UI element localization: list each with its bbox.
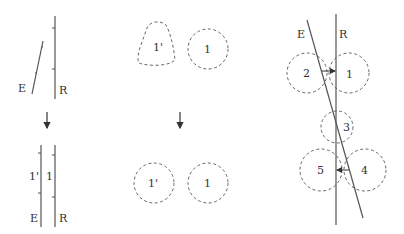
middle-top-group: 1' 1 (138, 22, 228, 69)
label-4: 4 (361, 164, 368, 177)
label-1: 1 (204, 43, 211, 56)
label-R: R (339, 28, 348, 41)
label-1prime: 1' (29, 170, 39, 183)
middle-bottom-group: 1' 1 (134, 163, 228, 203)
label-1: 1 (204, 177, 211, 190)
right-group: E R 2 1 3 4 5 (287, 14, 386, 225)
label-1prime: 1' (148, 177, 158, 190)
label-5: 5 (317, 164, 324, 177)
label-R: R (59, 84, 68, 97)
line-E-top (32, 41, 43, 94)
label-E: E (297, 28, 305, 41)
label-2: 2 (303, 67, 310, 80)
label-1: 1 (346, 68, 353, 81)
left-top-group: E R (18, 16, 68, 99)
line-E (307, 20, 363, 218)
left-bottom-group: 1' 1 E R (29, 145, 68, 227)
label-E: E (18, 82, 26, 95)
diagram-canvas: E R 1' 1 E R 1' 1 1' 1 (0, 0, 404, 234)
label-E: E (30, 212, 38, 225)
label-R: R (59, 212, 68, 225)
label-3: 3 (343, 121, 350, 134)
label-1: 1 (46, 170, 53, 183)
label-1prime: 1' (153, 41, 163, 54)
